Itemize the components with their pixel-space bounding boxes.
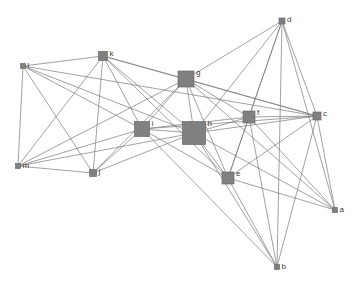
- graph-edge: [277, 116, 317, 267]
- graph-node-label-g: g: [196, 68, 200, 77]
- graph-edge: [23, 66, 142, 129]
- graph-node-label-b: b: [282, 262, 287, 271]
- graph-edge: [103, 56, 142, 129]
- graph-edge: [103, 56, 228, 178]
- graph-node-d[interactable]: [279, 18, 285, 24]
- graph-edge: [142, 129, 277, 267]
- graph-edge: [186, 79, 249, 117]
- graph-edge: [228, 116, 317, 178]
- graph-edge: [93, 56, 103, 173]
- graph-node-label-j: j: [98, 167, 101, 176]
- network-graph-svg: abcdefghijklm: [0, 0, 357, 286]
- graph-node-e[interactable]: [222, 172, 234, 184]
- graph-node-label-f: f: [257, 108, 260, 117]
- graph-node-c[interactable]: [313, 112, 321, 120]
- graph-node-label-k: k: [110, 49, 115, 58]
- graph-edge: [282, 21, 317, 116]
- graph-node-k[interactable]: [99, 52, 108, 61]
- graph-edge: [186, 79, 335, 210]
- graph-edge: [23, 66, 317, 116]
- graph-node-label-d: d: [287, 15, 291, 24]
- nodes-layer: [16, 18, 338, 270]
- graph-edge: [228, 178, 335, 210]
- graph-node-label-c: c: [323, 109, 327, 118]
- graph-node-label-l: l: [28, 61, 30, 70]
- graph-edge: [228, 21, 282, 178]
- graph-node-label-m: m: [23, 161, 30, 170]
- edges-layer: [18, 21, 335, 267]
- graph-edge: [18, 129, 142, 166]
- graph-node-label-i: i: [152, 119, 154, 128]
- graph-edge: [194, 21, 282, 133]
- graph-edge: [277, 21, 282, 267]
- network-graph-canvas: abcdefghijklm: [0, 0, 357, 286]
- graph-node-m[interactable]: [16, 164, 21, 169]
- graph-edge: [23, 56, 103, 66]
- graph-node-a[interactable]: [333, 208, 338, 213]
- graph-edge: [18, 79, 186, 166]
- graph-edge: [18, 166, 93, 173]
- graph-node-label-h: h: [208, 119, 212, 128]
- graph-node-f[interactable]: [243, 111, 255, 123]
- graph-node-g[interactable]: [178, 71, 194, 87]
- graph-node-b[interactable]: [275, 265, 280, 270]
- graph-node-label-a: a: [340, 205, 345, 214]
- graph-edge: [228, 178, 277, 267]
- graph-node-l[interactable]: [21, 64, 26, 69]
- graph-edge: [18, 66, 23, 166]
- graph-edge: [317, 116, 335, 210]
- graph-node-label-e: e: [236, 169, 241, 178]
- graph-node-i[interactable]: [135, 122, 150, 137]
- graph-node-j[interactable]: [90, 170, 97, 177]
- graph-node-h[interactable]: [183, 122, 206, 145]
